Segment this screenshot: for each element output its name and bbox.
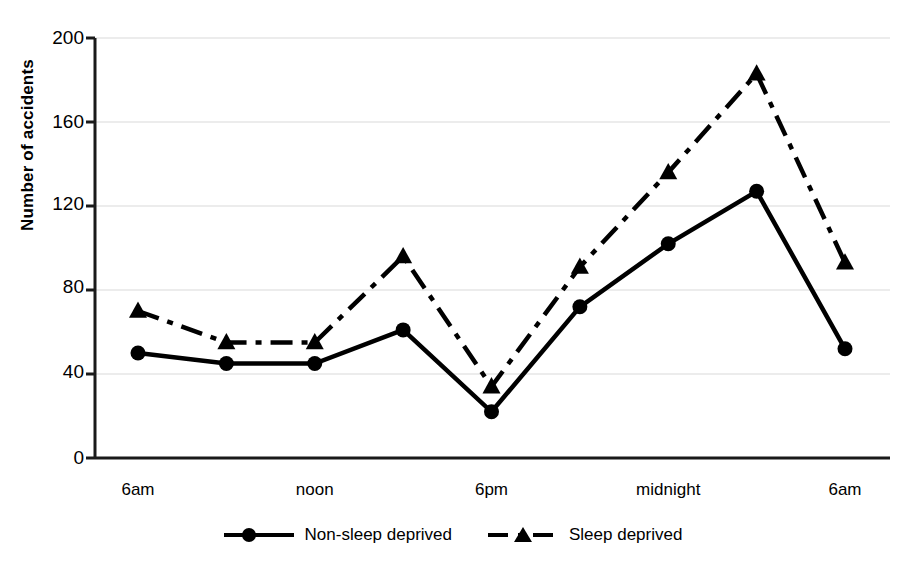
series-sleep-deprived xyxy=(129,64,854,393)
data-point[interactable] xyxy=(307,356,322,371)
data-point[interactable] xyxy=(219,356,234,371)
x-tick-label-6pm-2: 6pm xyxy=(475,480,508,500)
data-point[interactable] xyxy=(836,253,854,269)
legend-swatch-solid-circle xyxy=(222,525,296,545)
data-point[interactable] xyxy=(131,346,146,361)
data-point[interactable] xyxy=(571,257,589,273)
x-tick-label-6am-4: 6am xyxy=(828,480,861,500)
x-tick-label-6am-0: 6am xyxy=(121,480,154,500)
data-point[interactable] xyxy=(749,184,764,199)
data-point[interactable] xyxy=(838,341,853,356)
legend-entry-sleep-deprived[interactable]: Sleep deprived xyxy=(486,525,682,545)
legend-entry-non-sleep-deprived[interactable]: Non-sleep deprived xyxy=(222,525,452,545)
data-point[interactable] xyxy=(484,404,499,419)
data-point[interactable] xyxy=(748,64,766,80)
data-point[interactable] xyxy=(661,236,676,251)
x-tick-label-midnight-3: midnight xyxy=(636,480,700,500)
legend-swatch-dashed-triangle xyxy=(486,525,560,545)
chart-legend: Non-sleep deprived Sleep deprived xyxy=(0,525,904,545)
series-line xyxy=(138,74,845,387)
line-chart: Number of accidents 200 160 120 80 40 0 … xyxy=(0,0,904,577)
data-series-layer xyxy=(129,64,854,419)
data-point[interactable] xyxy=(572,299,587,314)
data-point[interactable] xyxy=(394,247,412,263)
plot-area xyxy=(0,0,904,520)
data-point[interactable] xyxy=(129,302,147,318)
axis-lines xyxy=(95,38,890,458)
gridlines xyxy=(95,38,890,374)
legend-label-non-sleep-deprived: Non-sleep deprived xyxy=(305,525,452,545)
legend-label-sleep-deprived: Sleep deprived xyxy=(569,525,682,545)
x-tick-label-noon-1: noon xyxy=(296,480,334,500)
data-point[interactable] xyxy=(396,322,411,337)
